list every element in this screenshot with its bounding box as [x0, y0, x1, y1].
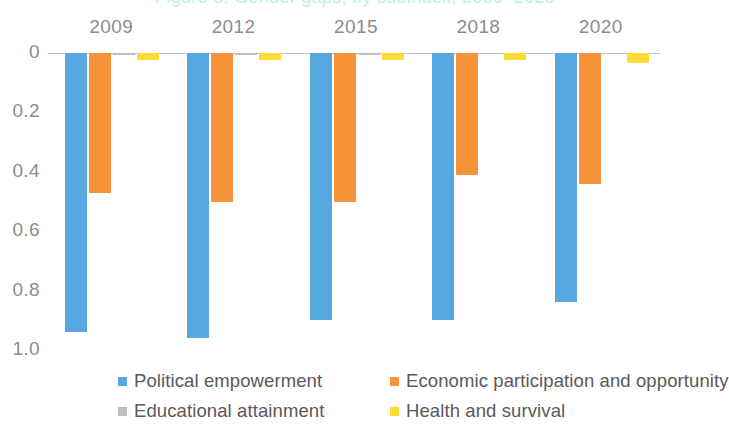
bar-2020-series-3	[627, 53, 649, 63]
bar-chart: 20092012201520182020 00.20.40.60.81.0	[0, 0, 671, 365]
legend-swatch-icon-3	[390, 407, 399, 416]
bar-2018-series-2	[480, 53, 502, 54]
x-axis-label-2009: 2009	[66, 16, 156, 38]
bar-2018-series-1	[456, 53, 478, 175]
legend-item-2[interactable]: Educational attainment	[118, 400, 324, 422]
bar-2020-series-2	[603, 53, 625, 54]
bar-2020-series-1	[579, 53, 601, 184]
bar-2015-series-0	[310, 53, 332, 320]
legend-label-0: Political empowerment	[134, 370, 322, 392]
x-axis-label-2015: 2015	[311, 16, 401, 38]
x-axis-label-2018: 2018	[433, 16, 523, 38]
bar-2015-series-2	[358, 53, 380, 55]
legend-item-1[interactable]: Economic participation and opportunity	[390, 370, 729, 392]
bar-2012-series-3	[259, 53, 281, 60]
bar-2012-series-2	[235, 53, 257, 55]
bar-2018-series-3	[504, 53, 526, 60]
bar-2020-series-0	[555, 53, 577, 302]
y-axis-label-1.0: 1.0	[0, 338, 40, 360]
legend-item-0[interactable]: Political empowerment	[118, 370, 322, 392]
bar-2009-series-3	[137, 53, 159, 60]
x-axis-label-2020: 2020	[556, 16, 646, 38]
legend-label-2: Educational attainment	[134, 400, 324, 422]
bar-2015-series-3	[382, 53, 404, 60]
bar-2009-series-1	[89, 53, 111, 193]
x-axis-label-2012: 2012	[189, 16, 279, 38]
y-axis-label-0.2: 0.2	[0, 100, 40, 122]
legend-label-1: Economic participation and opportunity	[406, 370, 729, 392]
bar-2012-series-0	[187, 53, 209, 338]
legend-swatch-icon-0	[118, 377, 127, 386]
y-axis-label-0: 0	[0, 41, 40, 63]
bar-2009-series-0	[65, 53, 87, 332]
y-axis-label-0.8: 0.8	[0, 279, 40, 301]
bar-2018-series-0	[432, 53, 454, 320]
y-axis-label-0.6: 0.6	[0, 219, 40, 241]
legend-item-3[interactable]: Health and survival	[390, 400, 565, 422]
legend-label-3: Health and survival	[406, 400, 565, 422]
plot-area	[48, 53, 660, 350]
legend-swatch-icon-1	[390, 377, 399, 386]
bar-2015-series-1	[334, 53, 356, 202]
bar-2009-series-2	[113, 53, 135, 55]
legend-swatch-icon-2	[118, 407, 127, 416]
y-axis-label-0.4: 0.4	[0, 160, 40, 182]
chart-legend: Political empowermentEconomic participat…	[0, 368, 671, 438]
bar-2012-series-1	[211, 53, 233, 202]
